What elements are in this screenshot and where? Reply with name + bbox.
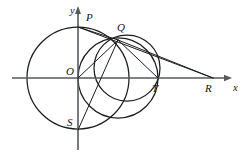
segment-q-o [78,40,118,78]
point-label-t: T [152,83,158,94]
point-label-o: O [66,66,74,77]
x-axis-arrowhead-icon [224,75,232,81]
point-label-s: S [67,117,73,128]
geometry-figure: P Q O T R S x y [0,0,251,153]
x-axis-label: x [233,83,238,94]
point-label-q: Q [117,22,125,33]
point-label-p: P [86,12,93,23]
y-axis-label: y [70,6,75,17]
geometry-canvas [0,0,251,153]
y-axis-arrowhead-icon [75,6,81,14]
point-label-r: R [205,83,212,94]
